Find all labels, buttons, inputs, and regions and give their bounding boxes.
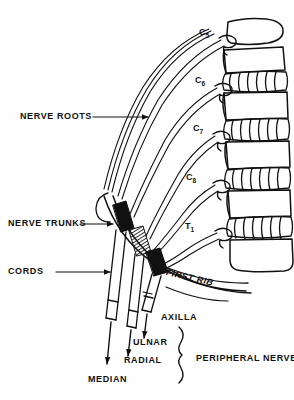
label-nerve-root-c5: C5	[199, 28, 209, 39]
label-nerve-root-c8: C8	[186, 173, 196, 184]
cord-radial	[127, 254, 144, 328]
vertebra-icon	[223, 92, 288, 120]
root-number: 7	[200, 128, 204, 135]
root-number: 8	[193, 177, 197, 184]
transverse-process-icon	[213, 131, 230, 151]
intervertebral-disc-icon	[224, 118, 290, 141]
label-nerve-trunks: NERVE TRUNKS	[8, 219, 86, 228]
vertebra-icon	[223, 47, 285, 73]
ulnar-arrow-icon	[144, 314, 147, 338]
label-nerve-root-t1: T1	[185, 222, 194, 233]
label-peripheral-nerves: PERIPHERAL NERVES	[196, 354, 294, 363]
root-number: 6	[202, 80, 206, 87]
label-ulnar: ULNAR	[133, 338, 168, 347]
cord-median	[106, 230, 126, 320]
label-nerve-root-c6: C6	[195, 76, 205, 87]
nerve-root-c7	[146, 136, 218, 239]
label-axilla: AXILLA	[161, 313, 197, 322]
label-cords: CORDS	[8, 267, 44, 276]
vertebra-icon	[227, 190, 291, 218]
nerve-trunk-lower	[146, 248, 168, 276]
root-number: 5	[206, 32, 210, 39]
nerve-root-t1	[160, 233, 219, 269]
label-radial: RADIAL	[124, 356, 162, 365]
intervertebral-disc-icon	[225, 167, 291, 190]
median-arrow-icon	[107, 322, 111, 364]
root-number: 1	[191, 226, 195, 233]
label-median: MEDIAN	[88, 375, 127, 384]
nerve-root-c6	[130, 88, 220, 217]
vertebra-icon	[230, 239, 293, 272]
figure-canvas: NERVE ROOTS NERVE TRUNKS CORDS FIRST RIB…	[0, 0, 294, 400]
label-nerve-root-c7: C7	[193, 124, 203, 135]
vertebra-icon	[225, 141, 290, 169]
intervertebral-disc-icon	[227, 216, 293, 239]
curly-brace-icon	[179, 327, 183, 383]
label-nerve-roots: NERVE ROOTS	[20, 112, 92, 121]
radial-arrow-icon	[128, 330, 131, 356]
